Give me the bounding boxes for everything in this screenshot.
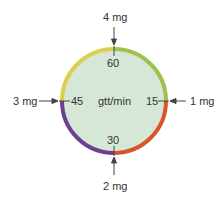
dial-number-left: 45: [71, 95, 83, 107]
arrowhead-bottom-icon: [112, 157, 117, 163]
dose-label-top: 4 mg: [103, 11, 127, 23]
dose-label-left: 3 mg: [13, 95, 37, 107]
dial-number-bottom: 30: [107, 134, 119, 146]
dose-label-right: 1 mg: [190, 95, 214, 107]
dial-number-top: 60: [107, 57, 119, 69]
dial-number-right: 15: [146, 95, 158, 107]
dose-label-bottom: 2 mg: [103, 180, 127, 192]
arrowhead-left-icon: [52, 99, 58, 104]
arrowhead-top-icon: [112, 39, 117, 45]
center-unit-label: gtt/min: [98, 95, 131, 107]
arrowhead-right-icon: [170, 99, 176, 104]
